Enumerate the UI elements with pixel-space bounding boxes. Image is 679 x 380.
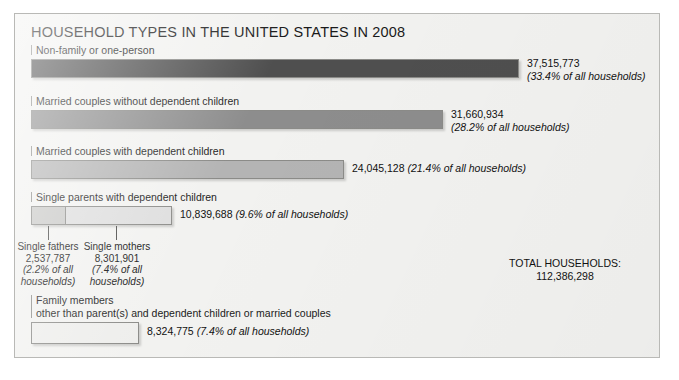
chart-row-other-family-members: Family members other than parent(s) and …: [31, 294, 651, 344]
bar-value-non-family: 37,515,773 (33.4% of all households): [527, 57, 646, 82]
total-households-label: TOTAL HOUSEHOLDS:: [509, 257, 621, 269]
bar-percent-other-family-members: (7.4% of all households): [197, 325, 310, 337]
bar-other-family-members: [31, 322, 139, 344]
annotation-single-fathers-pct-line1: (2.2% of all: [23, 264, 73, 275]
chart-row-married-without-children: Married couples without dependent childr…: [31, 95, 651, 140]
category-label-other-family-members-line1: Family members: [36, 294, 114, 306]
bar-value-married-without-children: 31,660,934 (28.2% of all households): [451, 108, 570, 133]
bar-percent-single-parents: (9.6% of all households): [235, 208, 348, 220]
bar-married-with-children: [31, 160, 344, 179]
category-label-married-without-children: Married couples without dependent childr…: [31, 95, 239, 107]
annotation-single-mothers-pct-line2: households): [90, 276, 144, 287]
bar-percent-married-with-children: (21.4% of all households): [407, 162, 526, 174]
annotation-single-mothers-name: Single mothers: [84, 241, 151, 252]
bar-number-married-with-children: 24,045,128: [352, 162, 405, 174]
annotation-single-mothers-pct-line1: (7.4% of all: [92, 264, 142, 275]
bar-number-non-family: 37,515,773: [527, 57, 580, 69]
bar-value-single-parents: 10,839,688 (9.6% of all households): [180, 208, 348, 221]
bar-non-family: [31, 59, 519, 78]
bar-percent-non-family: (33.4% of all households): [527, 70, 646, 82]
page-title: HOUSEHOLD TYPES IN THE UNITED STATES IN …: [31, 24, 405, 40]
total-households-value: 112,386,298: [536, 270, 594, 282]
bar-number-single-parents: 10,839,688: [180, 208, 233, 220]
infographic-poster: HOUSEHOLD TYPES IN THE UNITED STATES IN …: [14, 13, 660, 358]
bar-segment-single-mothers: [65, 207, 171, 224]
annotation-single-mothers: Single mothers 8,301,901 (7.4% of all ho…: [76, 241, 158, 287]
bar-segment-single-fathers: [32, 207, 65, 224]
annotation-single-fathers-name: Single fathers: [17, 241, 78, 252]
category-label-other-family-members-line2: other than parent(s) and dependent child…: [36, 307, 331, 319]
bar-value-married-with-children: 24,045,128 (21.4% of all households): [352, 162, 526, 175]
bar-value-other-family-members: 8,324,775 (7.4% of all households): [147, 325, 309, 338]
bar-married-without-children: [31, 110, 443, 129]
category-label-non-family: Non-family or one-person: [31, 44, 154, 56]
category-label-single-parents: Single parents with dependent children: [31, 191, 217, 203]
chart-row-non-family: Non-family or one-person 37,515,773 (33.…: [31, 44, 651, 89]
annotation-single-mothers-number: 8,301,901: [95, 253, 140, 264]
chart-row-married-with-children: Married couples with dependent children …: [31, 145, 651, 190]
bar-number-other-family-members: 8,324,775: [147, 325, 194, 337]
bar-single-parents-stacked: [31, 206, 172, 225]
category-label-other-family-members: Family members other than parent(s) and …: [31, 294, 331, 319]
leader-line-single-fathers: [48, 226, 49, 240]
bar-number-married-without-children: 31,660,934: [451, 108, 504, 120]
bar-percent-married-without-children: (28.2% of all households): [451, 121, 570, 133]
category-label-married-with-children: Married couples with dependent children: [31, 145, 225, 157]
annotation-single-fathers-pct-line2: households): [21, 276, 75, 287]
total-households: TOTAL HOUSEHOLDS: 112,386,298: [485, 257, 645, 282]
leader-line-single-mothers: [116, 226, 117, 240]
annotation-single-fathers-number: 2,537,787: [26, 253, 71, 264]
